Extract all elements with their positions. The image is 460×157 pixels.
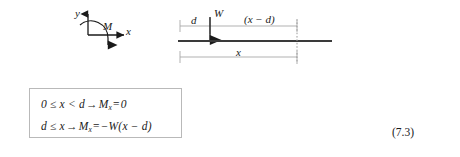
load-w-label: W (214, 8, 223, 19)
y-axis-label: y (75, 8, 80, 19)
remaining-distance-label: (x − d) (244, 14, 275, 25)
equation-line-1-arrow: → (85, 98, 99, 110)
x-axis-label: x (126, 26, 131, 37)
equation-line-2-result: −W(x − d) (101, 120, 152, 132)
equation-line-1: 0 ≤ x < d→Mx=0 (41, 95, 181, 117)
equation-box: 0 ≤ x < d→Mx=0 d ≤ x→Mx=−W(x − d) (29, 88, 182, 138)
moment-label: M (103, 21, 112, 32)
beam-load-diagram: d W (x − d) x (170, 4, 350, 70)
equation-line-1-result: 0 (121, 98, 127, 110)
equation-line-1-moment-symbol: M (99, 98, 109, 110)
equation-line-1-condition: 0 ≤ x < d (41, 98, 85, 110)
coordinate-axes-diagram: y x M (70, 4, 150, 64)
axes-vector-graphic (70, 4, 150, 64)
figure-page: y x M (0, 0, 460, 157)
equation-line-2-condition: d ≤ x (41, 120, 65, 132)
figure-area: y x M (0, 0, 460, 80)
section-distance-x-label: x (236, 47, 241, 58)
equation-line-1-equals: = (112, 98, 121, 110)
equation-line-2-moment-symbol: M (79, 120, 89, 132)
equation-line-2-arrow: → (65, 120, 79, 132)
equation-line-2-equals: = (92, 120, 101, 132)
equation-number: (7.3) (392, 126, 452, 138)
equation-line-2: d ≤ x→Mx=−W(x − d) (41, 117, 181, 139)
equation-lines: 0 ≤ x < d→Mx=0 d ≤ x→Mx=−W(x − d) (41, 95, 181, 139)
distance-d-label: d (191, 15, 197, 26)
